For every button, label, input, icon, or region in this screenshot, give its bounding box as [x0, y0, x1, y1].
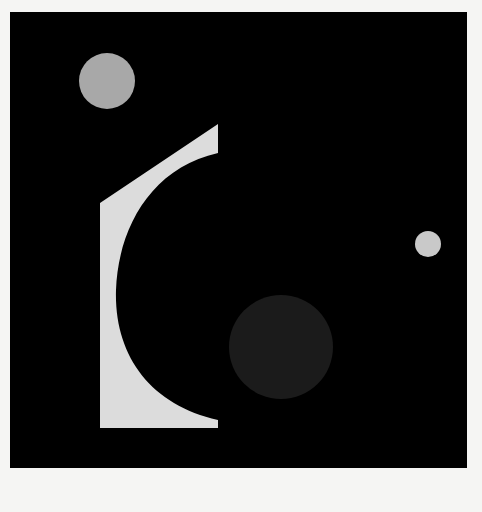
artwork-stage: [0, 0, 482, 512]
abstract-composition: [0, 0, 482, 512]
dark-circle: [229, 295, 333, 399]
grey-circle: [79, 53, 135, 109]
black-canvas: [10, 12, 467, 468]
small-light-circle: [415, 231, 441, 257]
